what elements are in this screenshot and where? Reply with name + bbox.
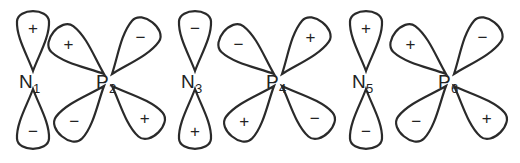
- atom-label: N: [181, 71, 195, 92]
- minus-sign: −: [28, 122, 38, 141]
- minus-sign: −: [69, 112, 79, 131]
- atom-label: N: [352, 71, 366, 92]
- p-orbital-lobe-bottom: +: [179, 89, 211, 149]
- p-orbital-lobe-top: +: [350, 11, 382, 71]
- p-orbital-lobe-top: +: [17, 11, 49, 71]
- plus-sign: +: [482, 109, 492, 128]
- atom-index: 3: [195, 81, 202, 96]
- atom-n1: +−N1: [17, 11, 49, 149]
- atom-index: 6: [451, 81, 458, 96]
- minus-sign: −: [477, 28, 487, 47]
- p-orbital-lobe-bottom: −: [350, 89, 382, 149]
- plus-sign: +: [64, 35, 74, 54]
- atom-label: P: [96, 71, 109, 92]
- atom-label: P: [266, 71, 279, 92]
- minus-sign: −: [411, 112, 421, 131]
- atom-label: P: [438, 71, 451, 92]
- atom-index: 2: [109, 81, 116, 96]
- minus-sign: −: [361, 122, 371, 141]
- atom-index: 5: [366, 81, 373, 96]
- orbital-diagram: +−N1+−−+P2−+N3−++−P4+−N5+−−+P6: [0, 0, 520, 163]
- atom-p2: +−−+P2: [43, 12, 171, 147]
- minus-sign: −: [135, 28, 145, 47]
- orbital-diagram-canvas: +−N1+−−+P2−+N3−++−P4+−N5+−−+P6: [0, 0, 520, 163]
- minus-sign: −: [234, 35, 244, 54]
- minus-sign: −: [310, 109, 320, 128]
- atom-n5: +−N5: [350, 11, 382, 149]
- atom-p6: +−−+P6: [385, 12, 513, 147]
- minus-sign: −: [190, 19, 200, 38]
- plus-sign: +: [361, 19, 371, 38]
- plus-sign: +: [28, 19, 38, 38]
- atom-label: N: [19, 71, 33, 92]
- p-orbital-lobe-top: −: [179, 11, 211, 71]
- p-orbital-lobe-bottom: −: [17, 89, 49, 149]
- atom-index: 4: [279, 81, 286, 96]
- plus-sign: +: [190, 122, 200, 141]
- plus-sign: +: [406, 35, 416, 54]
- plus-sign: +: [305, 28, 315, 47]
- plus-sign: +: [239, 112, 249, 131]
- plus-sign: +: [140, 109, 150, 128]
- atom-p4: −++−P4: [213, 12, 341, 147]
- atom-index: 1: [33, 81, 40, 96]
- atom-n3: −+N3: [179, 11, 211, 149]
